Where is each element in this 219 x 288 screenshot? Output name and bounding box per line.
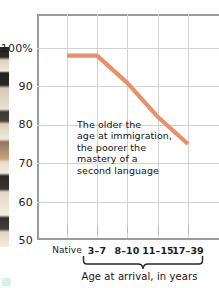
gridline-y-60 bbox=[37, 202, 219, 203]
page-corner-mark bbox=[2, 278, 11, 286]
x-axis-caption: Age at arrival, in years bbox=[60, 271, 219, 282]
y-tick-label-90: 90 bbox=[0, 80, 33, 93]
y-tick-label-100: 100% bbox=[0, 42, 33, 55]
annotation-line-5: second language bbox=[77, 165, 172, 176]
y-tick-label-60: 60 bbox=[0, 196, 33, 209]
axis-top bbox=[37, 14, 219, 16]
annotation-line-2: age at immigration, bbox=[77, 130, 172, 141]
x-tick-mark-17-39 bbox=[188, 226, 189, 233]
x-tick-mark-8-10 bbox=[127, 226, 128, 233]
x-tick-mark-3-7 bbox=[97, 226, 98, 233]
x-tick-mark-native bbox=[67, 226, 68, 233]
gridline-y-100 bbox=[37, 48, 219, 49]
annotation-line-4: mastery of a bbox=[77, 153, 172, 164]
annotation-line-3: the poorer the bbox=[77, 142, 172, 153]
y-tick-label-80: 80 bbox=[0, 118, 33, 131]
chart-figure: 100% 90 80 70 60 50 Native 3–7 8–10 11–1… bbox=[0, 0, 219, 288]
gridline-x-native bbox=[67, 14, 68, 238]
chart-annotation: The older the age at immigration, the po… bbox=[77, 119, 172, 176]
axis-bottom bbox=[37, 238, 219, 240]
y-tick-label-50: 50 bbox=[0, 234, 33, 247]
y-tick-label-70: 70 bbox=[0, 157, 33, 170]
gridline-x-17-39 bbox=[188, 14, 189, 238]
gridline-y-90 bbox=[37, 86, 219, 87]
page-scan-photo-sliver bbox=[0, 47, 9, 247]
x-tick-label-17-39: 17–39 bbox=[165, 245, 211, 256]
x-axis-brace bbox=[82, 256, 204, 269]
x-tick-mark-11-15 bbox=[158, 226, 159, 233]
page-margin-blank bbox=[0, 0, 9, 47]
annotation-line-1: The older the bbox=[77, 119, 172, 130]
